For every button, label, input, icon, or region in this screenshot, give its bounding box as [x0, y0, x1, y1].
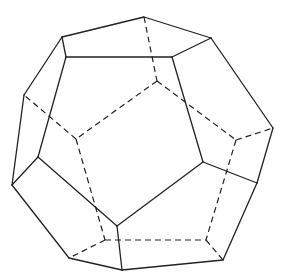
- edge-v1-v3: [144, 17, 211, 38]
- edge-v3-v7: [211, 38, 273, 128]
- edge-v11-v10: [117, 162, 203, 226]
- edge-v8-v10: [38, 157, 117, 226]
- edge-v1-v2: [62, 17, 144, 37]
- hidden-edge-h4-v13: [69, 240, 105, 258]
- edge-v11-v12: [203, 162, 257, 183]
- hidden-edge-h2-v6: [24, 95, 76, 139]
- hidden-edge-h5-v15: [206, 240, 223, 260]
- edge-v14-v15: [122, 260, 223, 270]
- edge-v6-v9: [12, 95, 24, 185]
- hidden-edge-h1-h3: [157, 81, 236, 140]
- hidden-edge-v1-h1: [144, 17, 157, 81]
- edge-v10-v14: [117, 226, 122, 270]
- edge-v2-v4: [62, 37, 66, 57]
- edge-v12-v15: [223, 183, 257, 260]
- edge-v7-v12: [257, 128, 273, 183]
- edge-v4-v8: [38, 57, 66, 157]
- edge-v2-v6: [24, 37, 62, 95]
- hidden-edge-h2-h4: [76, 139, 105, 240]
- dodecahedron-diagram: [0, 0, 292, 280]
- hidden-edges: [24, 17, 273, 260]
- edge-v9-v13: [12, 185, 69, 258]
- edge-v8-v9: [12, 157, 38, 185]
- hidden-edge-h3-h5: [206, 140, 236, 240]
- hidden-edge-h3-v7: [236, 128, 273, 140]
- edge-v5-v3: [172, 38, 211, 57]
- visible-edges: [12, 17, 273, 270]
- hidden-edge-h1-h2: [76, 81, 157, 139]
- edge-v13-v14: [69, 258, 122, 270]
- edge-v5-v11: [172, 57, 203, 162]
